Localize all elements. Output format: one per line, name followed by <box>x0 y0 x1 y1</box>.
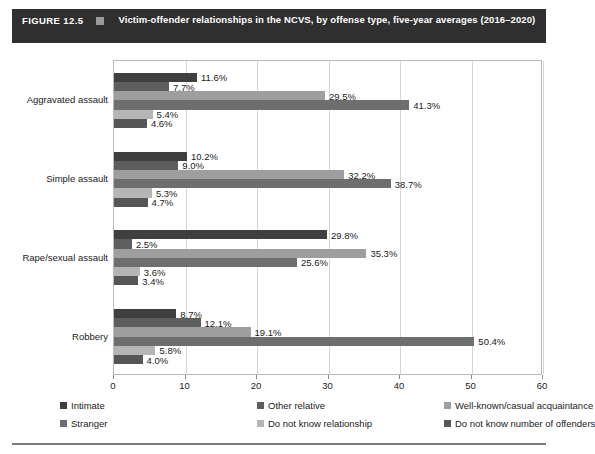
legend-label: Other relative <box>268 400 325 411</box>
bar[interactable] <box>114 276 138 285</box>
bar-value-label: 4.0% <box>143 354 169 365</box>
axis-tick <box>256 375 257 379</box>
bar-row: 12.1% <box>114 318 541 327</box>
bar-row: 5.3% <box>114 188 541 197</box>
axis-tick-label: 0 <box>110 380 115 391</box>
bar[interactable] <box>114 152 187 161</box>
bar[interactable] <box>114 198 148 207</box>
bar-groups: 11.6%7.7%29.5%41.3%5.4%4.6%10.2%9.0%32.2… <box>114 61 541 374</box>
legend-item[interactable]: Do not know relationship <box>257 418 372 429</box>
legend-label: Well-known/casual acquaintance <box>455 400 593 411</box>
bar-group: 8.7%12.1%19.1%50.4%5.8%4.0% <box>114 297 541 376</box>
figure-title: Victim-offender relationships in the NCV… <box>118 14 535 27</box>
bar-row: 3.4% <box>114 276 541 285</box>
legend-swatch-icon <box>60 402 67 409</box>
bar-row: 4.0% <box>114 355 541 364</box>
legend-swatch-icon <box>444 420 451 427</box>
bar[interactable] <box>114 82 169 91</box>
bar[interactable] <box>114 119 147 128</box>
axis-tick <box>328 375 329 379</box>
axis-tick <box>113 375 114 379</box>
legend-item[interactable]: Other relative <box>257 400 325 411</box>
bar-row: 29.5% <box>114 91 541 100</box>
legend-swatch-icon <box>60 420 67 427</box>
bar-row: 4.6% <box>114 119 541 128</box>
bar[interactable] <box>114 91 325 100</box>
category-label: Robbery <box>0 330 108 341</box>
bar-row: 38.7% <box>114 179 541 188</box>
figure-header: FIGURE 12.5 Victim-offender relationship… <box>12 9 546 43</box>
bar-row: 5.4% <box>114 110 541 119</box>
value-axis: 0102030405060 <box>113 375 542 393</box>
chart-legend: IntimateOther relativeWell-known/casual … <box>60 400 540 436</box>
bar-row: 4.7% <box>114 198 541 207</box>
axis-tick <box>399 375 400 379</box>
bar-row: 29.8% <box>114 230 541 239</box>
bar-value-label: 4.6% <box>147 118 173 129</box>
bar-row: 25.6% <box>114 258 541 267</box>
category-label: Rape/sexual assault <box>0 251 108 262</box>
legend-item[interactable]: Intimate <box>60 400 105 411</box>
bar[interactable] <box>114 355 143 364</box>
legend-swatch-icon <box>444 402 451 409</box>
bar-row: 3.6% <box>114 267 541 276</box>
bar-row: 2.5% <box>114 239 541 248</box>
axis-tick-label: 60 <box>537 380 548 391</box>
legend-label: Stranger <box>71 418 107 429</box>
bar-row: 9.0% <box>114 161 541 170</box>
bar-group: 29.8%2.5%35.3%25.6%3.6%3.4% <box>114 219 541 298</box>
axis-tick <box>471 375 472 379</box>
axis-tick <box>542 375 543 379</box>
bar[interactable] <box>114 239 132 248</box>
axis-tick <box>185 375 186 379</box>
square-marker-icon <box>96 17 104 25</box>
legend-swatch-icon <box>257 420 264 427</box>
bar-group: 10.2%9.0%32.2%38.7%5.3%4.7% <box>114 140 541 219</box>
footer-rule <box>12 443 546 445</box>
bar-row: 5.8% <box>114 346 541 355</box>
figure-number: FIGURE 12.5 <box>22 14 83 26</box>
axis-tick-label: 20 <box>251 380 262 391</box>
bar[interactable] <box>114 161 178 170</box>
axis-tick-label: 10 <box>179 380 190 391</box>
bar[interactable] <box>114 249 366 258</box>
bar[interactable] <box>114 309 176 318</box>
bar[interactable] <box>114 188 152 197</box>
axis-tick-label: 30 <box>322 380 333 391</box>
category-label: Simple assault <box>0 173 108 184</box>
bar-row: 8.7% <box>114 309 541 318</box>
axis-tick-label: 50 <box>465 380 476 391</box>
legend-item[interactable]: Stranger <box>60 418 107 429</box>
bar-value-label: 4.7% <box>148 197 174 208</box>
bar-row: 32.2% <box>114 170 541 179</box>
gridline <box>543 61 544 374</box>
axis-tick-label: 40 <box>394 380 405 391</box>
legend-label: Do not know relationship <box>268 418 372 429</box>
category-axis-labels: Aggravated assaultSimple assaultRape/sex… <box>0 60 108 375</box>
category-label: Aggravated assault <box>0 94 108 105</box>
bar-group: 11.6%7.7%29.5%41.3%5.4%4.6% <box>114 61 541 140</box>
bar-value-label: 3.4% <box>138 275 164 286</box>
bar[interactable] <box>114 267 140 276</box>
bar[interactable] <box>114 318 201 327</box>
legend-item[interactable]: Well-known/casual acquaintance <box>444 400 593 411</box>
bar[interactable] <box>114 327 251 336</box>
legend-label: Intimate <box>71 400 105 411</box>
legend-label: Do not know number of offenders <box>455 418 595 429</box>
plot-area: 11.6%7.7%29.5%41.3%5.4%4.6%10.2%9.0%32.2… <box>113 60 542 375</box>
legend-swatch-icon <box>257 402 264 409</box>
legend-item[interactable]: Do not know number of offenders <box>444 418 595 429</box>
bar[interactable] <box>114 170 344 179</box>
